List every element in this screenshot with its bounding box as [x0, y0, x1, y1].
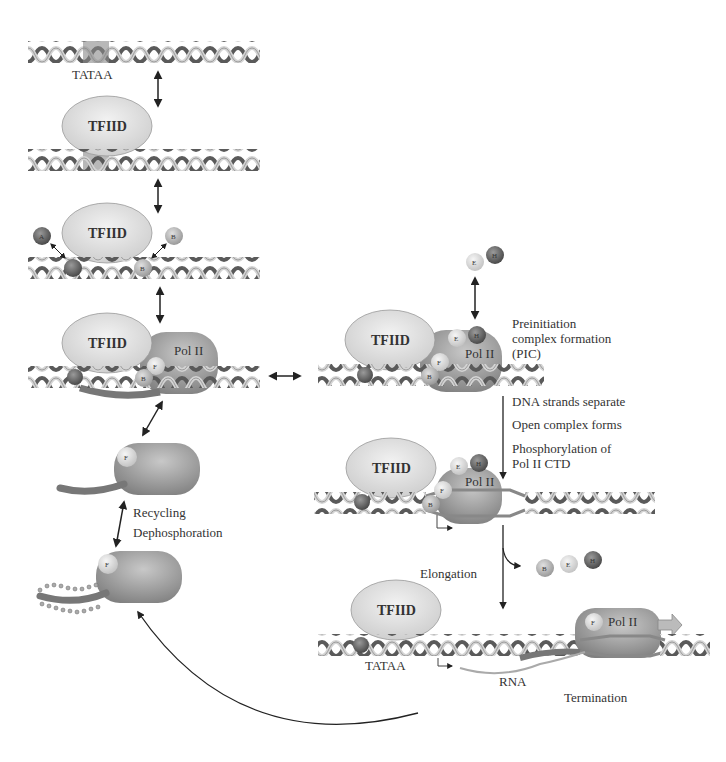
svg-text:F: F [440, 487, 444, 495]
released-pol2: F [60, 443, 200, 495]
tfiid-label: TFIID [88, 226, 127, 241]
elongation-label: Elongation [420, 566, 478, 581]
svg-text:Pol II CTD: Pol II CTD [512, 456, 571, 471]
svg-text:TFIID: TFIID [372, 461, 411, 476]
svg-text:E: E [454, 335, 458, 343]
svg-text:B: B [428, 501, 433, 509]
phosphorylation-label: Phosphorylation of [512, 441, 612, 456]
pol2-recruitment-step: TFIID Pol II F B [28, 313, 260, 395]
svg-text:F: F [124, 454, 128, 462]
svg-text:E: E [456, 463, 460, 471]
svg-text:B: B [427, 373, 432, 381]
pic-step: E H TFIID E H Pol II F B [318, 246, 544, 392]
svg-text:B: B [140, 265, 145, 273]
svg-text:F: F [153, 363, 157, 371]
reversible-arrow [143, 402, 162, 435]
dna-helix [28, 41, 260, 63]
svg-text:TATAA: TATAA [365, 658, 406, 673]
transcription-diagram: TATAA TFIID TFIID A B B TFIID Pol II F [0, 0, 726, 762]
tfiid-label: TFIID [88, 119, 127, 134]
recycling-label: Recycling [133, 505, 186, 520]
svg-text:E: E [566, 561, 570, 569]
tataa-label: TATAA [72, 67, 113, 82]
tfiia-tfiib-binding-step: TFIID A B B [28, 203, 260, 279]
tataa-box [83, 41, 109, 63]
pic-label: Preinitiation [512, 316, 577, 331]
svg-text:F: F [437, 359, 441, 367]
rna-label: RNA [499, 674, 527, 689]
svg-text:H: H [476, 460, 481, 468]
svg-text:A: A [39, 233, 44, 241]
pol2-label: Pol II [174, 343, 203, 358]
open-complex-label: Open complex forms [512, 417, 622, 432]
svg-text:B: B [542, 565, 547, 573]
svg-text:Pol II: Pol II [465, 346, 494, 361]
dna-tataa-step: TATAA [28, 41, 260, 82]
svg-text:F: F [591, 619, 595, 627]
dephosphoration-label: Dephosphoration [133, 525, 223, 540]
svg-text:H: H [492, 252, 497, 260]
svg-text:B: B [141, 375, 146, 383]
svg-text:Pol II: Pol II [465, 474, 494, 489]
dna-separate-label: DNA strands separate [512, 394, 626, 409]
factor-a-bound [64, 259, 82, 277]
svg-text:F: F [105, 561, 109, 569]
svg-text:H: H [590, 557, 595, 565]
svg-text:H: H [474, 332, 479, 340]
dna-helix [28, 149, 260, 171]
svg-text:E: E [472, 259, 476, 267]
svg-text:B: B [171, 233, 176, 241]
termination-label: Termination [564, 690, 628, 705]
svg-text:Pol II: Pol II [608, 614, 637, 629]
svg-text:TFIID: TFIID [371, 333, 410, 348]
phosphorylated-pol2: F [38, 551, 182, 614]
svg-text:TFIID: TFIID [88, 336, 127, 351]
svg-text:complex formation: complex formation [512, 331, 612, 346]
svg-text:TFIID: TFIID [377, 603, 416, 618]
tfiid-binding-step: TFIID [28, 96, 260, 171]
svg-text:(PIC): (PIC) [512, 346, 541, 361]
